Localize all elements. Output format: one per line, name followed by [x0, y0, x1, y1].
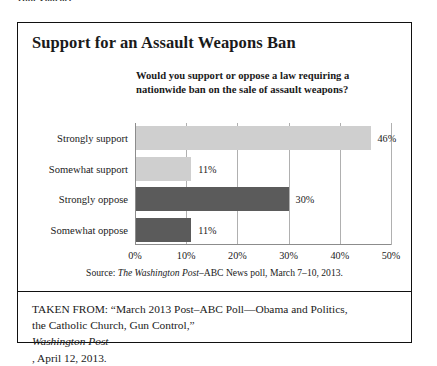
chart-question-line-1: Would you support or oppose a law requir…	[136, 69, 404, 83]
caption-line-1: TAKEN FROM: “March 2013 Post–ABC Poll—Ob…	[32, 301, 404, 317]
tick-label: 50%	[382, 250, 401, 261]
value-axis-labels: 0%10%20%30%40%50%	[135, 250, 391, 264]
tick-label: 20%	[228, 250, 247, 261]
chart-question-line-2: nationwide ban on the sale of assault we…	[136, 83, 404, 97]
caption-line-2-post: , April 12, 2013.	[32, 350, 404, 366]
running-header: Gun Violence	[18, 0, 73, 1]
caption-line-2: the Catholic Church, Gun Control,” Washi…	[32, 317, 404, 366]
tick-label: 40%	[330, 250, 349, 261]
caption-divider	[18, 291, 411, 292]
source-line: Source: The Washington Post–ABC News pol…	[18, 267, 411, 278]
figure-box: Support for an Assault Weapons Ban Would…	[17, 22, 412, 343]
category-label: Strongly support	[0, 133, 128, 144]
source-publication: The Washington Post	[118, 267, 199, 278]
tick-label: 0%	[128, 250, 142, 261]
category-label: Strongly oppose	[0, 194, 128, 205]
category-label: Somewhat support	[0, 163, 128, 174]
chart-question: Would you support or oppose a law requir…	[136, 69, 404, 97]
tick-label: 10%	[177, 250, 196, 261]
tick-label: 30%	[279, 250, 298, 261]
caption-publication: Washington Post	[32, 335, 108, 347]
plot-area: 46%11%30%11%	[135, 123, 391, 245]
caption-line-2-pre: the Catholic Church, Gun Control,”	[32, 317, 404, 333]
category-label: Somewhat oppose	[0, 224, 128, 235]
source-prefix: Source:	[86, 267, 118, 278]
figure-title: Support for an Assault Weapons Ban	[32, 33, 296, 53]
category-axis-labels: Strongly supportSomewhat supportStrongly…	[18, 123, 128, 245]
caption: TAKEN FROM: “March 2013 Post–ABC Poll—Ob…	[32, 301, 404, 366]
bar-chart: Strongly supportSomewhat supportStrongly…	[18, 105, 413, 265]
source-suffix: –ABC News poll, March 7–10, 2013.	[199, 267, 343, 278]
plot-frame	[135, 123, 391, 245]
